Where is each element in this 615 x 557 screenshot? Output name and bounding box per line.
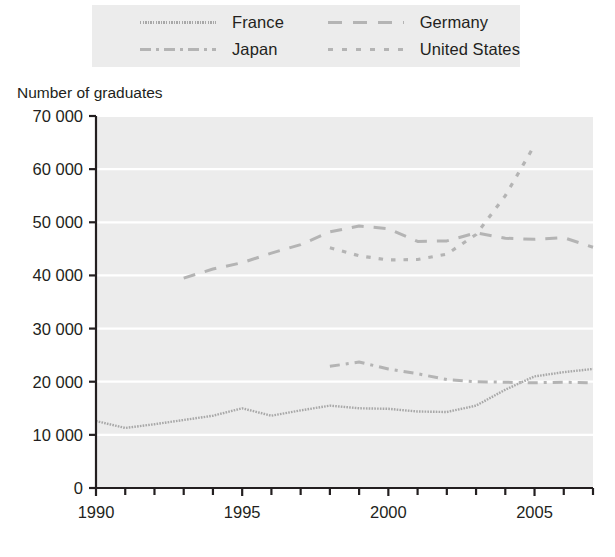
line-chart-svg: 010 00020 00030 00040 00050 00060 00070 … xyxy=(0,0,615,557)
x-axis-ticks xyxy=(96,488,593,496)
y-axis-tick-labels: 010 00020 00030 00040 00050 00060 00070 … xyxy=(33,107,83,497)
x-tick-label-2005: 2005 xyxy=(516,503,553,521)
chart-canvas: 010 00020 00030 00040 00050 00060 00070 … xyxy=(0,0,615,557)
y-tick-label-10000: 10 000 xyxy=(33,426,83,444)
plot-area-background xyxy=(96,116,593,488)
y-tick-label-60000: 60 000 xyxy=(33,160,83,178)
x-tick-label-1995: 1995 xyxy=(224,503,261,521)
y-tick-label-70000: 70 000 xyxy=(33,107,83,125)
plot-background xyxy=(96,116,593,488)
x-axis-tick-labels: 1990199520002005 xyxy=(78,503,553,521)
y-tick-label-50000: 50 000 xyxy=(33,213,83,231)
y-tick-label-30000: 30 000 xyxy=(33,320,83,338)
y-tick-label-0: 0 xyxy=(74,479,83,497)
y-tick-label-40000: 40 000 xyxy=(33,266,83,284)
x-tick-label-2000: 2000 xyxy=(370,503,407,521)
y-tick-label-20000: 20 000 xyxy=(33,373,83,391)
chart-page: France Germany Japan United States Numbe… xyxy=(0,0,615,557)
x-tick-label-1990: 1990 xyxy=(78,503,115,521)
